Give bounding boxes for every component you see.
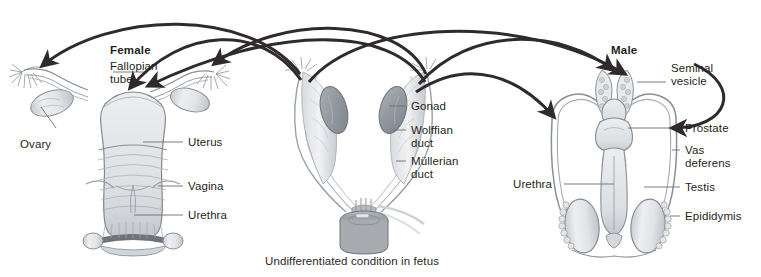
male-panel-title: Male <box>611 44 637 58</box>
diagram-canvas <box>0 0 761 277</box>
female-panel-title: Female <box>110 44 151 58</box>
female-panel-art <box>9 64 230 256</box>
label-epididymis: Epididymis <box>685 210 742 224</box>
label-testis: Testis <box>685 181 715 195</box>
label-ovary: Ovary <box>20 138 51 152</box>
label-wolffian-duct-line2: duct <box>411 137 433 151</box>
label-mullerian-duct-line2: duct <box>411 168 433 182</box>
label-seminal-vesicle-line2: vesicle <box>671 75 707 89</box>
female-left-fimbriae <box>9 64 42 88</box>
anatomy-figure: Female Fallopian tube Ovary Uterus Vagin… <box>0 0 761 277</box>
label-seminal-vesicle-line1: Seminal <box>671 62 713 76</box>
arrow-mullerian-to-fallopian-left <box>42 24 300 74</box>
label-fallopian-tube-line1: Fallopian <box>110 60 158 74</box>
figure-caption: Undifferentiated condition in fetus <box>265 255 439 269</box>
male-panel-art <box>551 70 676 257</box>
label-urethra-female: Urethra <box>188 209 227 223</box>
label-vagina: Vagina <box>188 180 224 194</box>
label-uterus: Uterus <box>188 136 222 150</box>
label-vas-deferens-line2: deferens <box>685 157 731 171</box>
label-vas-deferens-line1: Vas <box>685 144 704 158</box>
label-wolffian-duct-line1: Wolffian <box>411 124 453 138</box>
label-fallopian-tube-line2: tube <box>110 73 133 87</box>
label-mullerian-duct-line1: Müllerian <box>411 155 459 169</box>
label-urethra-male: Urethra <box>513 178 552 192</box>
label-gonad: Gonad <box>411 100 446 114</box>
label-prostate: Prostate <box>685 122 729 136</box>
